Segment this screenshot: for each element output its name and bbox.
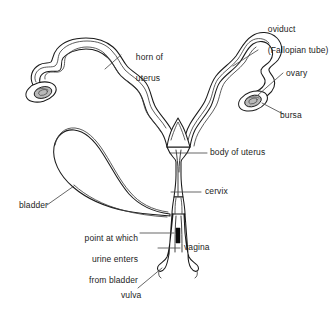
left-ovary-group (23, 79, 58, 106)
label-oviduct-line2: (Fallopian tube) (268, 45, 329, 55)
label-body-of-uterus: body of uterus (210, 147, 265, 158)
cervix-region (172, 197, 185, 214)
label-cervix: cervix (205, 186, 228, 197)
vulva (159, 271, 198, 278)
label-urine-point-line1: point at which (85, 233, 138, 243)
anatomy-figure: oviduct (Fallopian tube) ovary bursa hor… (0, 0, 336, 322)
urine-entry-point (176, 228, 180, 243)
leader-bladder (47, 186, 74, 205)
label-horn-of-uterus: horn of uterus (126, 41, 163, 94)
label-urine-point-line3: from bladder (89, 275, 138, 285)
label-urine-point: point at which urine enters from bladder (62, 222, 138, 296)
label-vagina: vagina (184, 242, 210, 253)
label-horn-of-uterus-line2: uterus (136, 73, 160, 83)
label-oviduct: oviduct (Fallopian tube) (258, 13, 329, 66)
leader-vulva (138, 268, 162, 288)
label-oviduct-line1: oviduct (268, 24, 296, 34)
label-bladder: bladder (19, 200, 48, 211)
label-urine-point-line2: urine enters (92, 254, 138, 264)
label-ovary: ovary (286, 68, 307, 79)
label-vulva: vulva (121, 290, 141, 301)
label-horn-of-uterus-line1: horn of (136, 52, 163, 62)
label-bursa: bursa (280, 110, 302, 121)
bladder (54, 128, 170, 217)
